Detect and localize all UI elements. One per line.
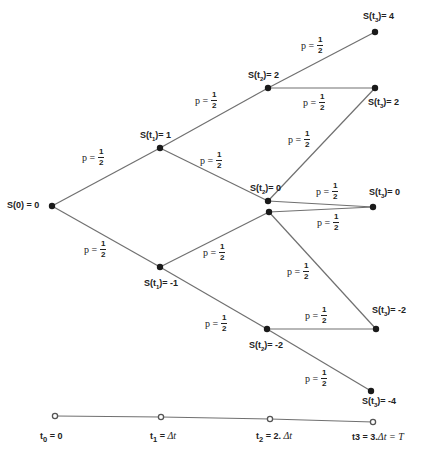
- binomial-tree-diagram: S(0) = 0 S(t1)= 1 S(t1)= -1 S(t2)= 2 S(t…: [0, 0, 425, 454]
- tree-nodes: [49, 29, 379, 394]
- node-label-s2-m2: S(t2)= -2: [249, 340, 283, 352]
- node-label-s3-2: S(t3)= 2: [368, 97, 399, 109]
- node-label-s1-up: S(t1)= 1: [140, 130, 171, 142]
- time-axis: [52, 413, 375, 424]
- prob-label-s1down-down: p =12: [205, 314, 227, 333]
- node-label-s3-m2: S(t3)= -2: [372, 305, 406, 317]
- prob-label-s0-up: p =12: [82, 148, 104, 167]
- prob-label-s2-m2-down: p =12: [305, 369, 327, 388]
- prob-label-s0-down: p =12: [84, 240, 106, 259]
- prob-label-s1up-down: p =12: [200, 151, 222, 170]
- node-label-s3-m4: S(t3)= -4: [362, 396, 396, 408]
- node-label-s1-down: S(t1)= -1: [144, 278, 178, 290]
- prob-label-s2-m2-flat: p =12: [305, 306, 327, 325]
- tree-edges: [52, 32, 376, 391]
- time-label-t3: t3 = 3.Δt = T: [352, 431, 404, 442]
- prob-label-s2-0-up: p =12: [288, 130, 310, 149]
- prob-label-s1up-up: p =12: [195, 91, 217, 110]
- node-label-s3-4: S(t3)= 4: [363, 11, 394, 23]
- prob-label-s2-0a-flat: p =12: [316, 182, 338, 201]
- time-label-t0: t0 = 0: [40, 430, 62, 444]
- prob-label-s2-2-flat: p =12: [303, 93, 325, 112]
- prob-label-s1down-up: p =12: [203, 243, 225, 262]
- prob-label-s2-2-up: p =12: [301, 36, 323, 55]
- node-label-s2-0: S(t2)= 0: [250, 183, 281, 195]
- prob-label-s2-0b-down: p =12: [287, 262, 309, 281]
- time-label-t2: t2 = 2. Δt: [256, 430, 292, 444]
- time-label-t1: t1 = Δt: [150, 430, 176, 444]
- prob-label-s2-0b-flat: p =12: [317, 213, 339, 232]
- node-label-s0: S(0) = 0: [7, 200, 39, 210]
- node-label-s3-0: S(t3)= 0: [369, 187, 400, 199]
- tree-lines: [0, 0, 425, 454]
- node-label-s2-2: S(t2)= 2: [248, 70, 279, 82]
